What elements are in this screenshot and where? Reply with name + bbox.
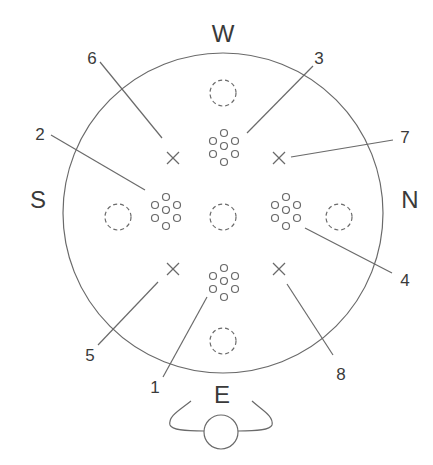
cross-marker-upper-right [273, 152, 285, 164]
dashed-marker-top [210, 80, 236, 106]
callout-6: 6 [87, 49, 96, 68]
direction-west-label: W [212, 20, 235, 47]
cross-marker-lower-left [167, 263, 179, 275]
entrance-circle [204, 415, 238, 449]
leader-3 [247, 66, 313, 133]
dashed-marker-center [210, 204, 236, 230]
callout-2: 2 [35, 125, 44, 144]
leader-7 [291, 140, 393, 157]
cross-marker-upper-left [167, 152, 179, 164]
entrance-left-arm [170, 401, 204, 431]
dashed-marker-left [105, 204, 131, 230]
dashed-marker-bottom [210, 328, 236, 354]
leader-lines [51, 62, 393, 377]
callout-7: 7 [400, 128, 409, 147]
hole-cluster-left [152, 194, 181, 230]
direction-south-label: S [30, 186, 46, 213]
cross-marker-lower-right [273, 263, 285, 275]
leader-2 [51, 135, 145, 190]
callout-8: 8 [336, 365, 345, 384]
direction-east-label: E [214, 381, 230, 408]
hole-cluster-top [210, 130, 239, 166]
dashed-marker-right [326, 204, 352, 230]
leader-1 [163, 297, 207, 377]
hole-cluster-bottom [210, 265, 239, 301]
callout-5: 5 [85, 346, 94, 365]
outer-boundary-circle [63, 53, 383, 373]
well-layout-diagram: W S N E [0, 0, 433, 465]
callout-4: 4 [400, 271, 409, 290]
direction-north-label: N [401, 186, 418, 213]
entrance-symbol [170, 401, 272, 449]
leader-5 [98, 282, 158, 345]
entrance-right-arm [238, 401, 272, 431]
callout-3: 3 [314, 49, 323, 68]
callout-1: 1 [150, 378, 159, 397]
hole-cluster-right [272, 194, 301, 230]
leader-8 [287, 284, 333, 355]
